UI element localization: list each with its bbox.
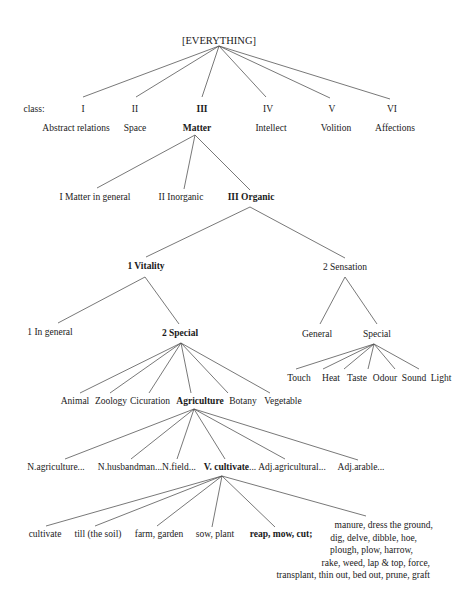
node-adj-agricultural: Adj.agricultural... bbox=[258, 462, 326, 473]
class-name-volition: Volition bbox=[321, 123, 351, 134]
class-name-space: Space bbox=[124, 123, 147, 134]
node-cultivate-verbs-block: manure, dress the ground, dig, delve, di… bbox=[276, 519, 430, 582]
class-numeral-i: I bbox=[81, 104, 84, 115]
node-n-husbandman: N.husbandman... bbox=[98, 462, 162, 473]
node-zoology: Zoology bbox=[95, 396, 127, 407]
node-sensation-special: Special bbox=[363, 329, 391, 340]
class-numeral-v: V bbox=[329, 104, 336, 115]
node-botany: Botany bbox=[229, 396, 256, 407]
node-sow-plant: sow, plant bbox=[196, 529, 234, 540]
class-numeral-iii: III bbox=[196, 104, 207, 115]
tree-edges bbox=[0, 0, 454, 605]
class-name-matter: Matter bbox=[183, 123, 211, 134]
node-cicuration: Cicuration bbox=[130, 396, 170, 407]
node-farm-garden: farm, garden bbox=[135, 529, 184, 540]
node-vitality: 1 Vitality bbox=[127, 261, 164, 272]
verbs-line-5: transplant, thin out, bed out, prune, gr… bbox=[276, 569, 430, 582]
node-taste: Taste bbox=[347, 373, 367, 384]
verbs-line-3: plough, plow, harrow, bbox=[276, 544, 413, 557]
class-numeral-iv: IV bbox=[263, 104, 273, 115]
verbs-line-4: rake, weed, lap & top, force, bbox=[276, 557, 430, 570]
class-name-abstract-relations: Abstract relations bbox=[42, 123, 109, 134]
node-2-special: 2 Special bbox=[162, 328, 198, 339]
class-name-intellect: Intellect bbox=[255, 123, 286, 134]
class-numeral-vi: VI bbox=[387, 104, 397, 115]
node-matter-in-general: I Matter in general bbox=[60, 192, 131, 203]
node-organic: III Organic bbox=[228, 192, 275, 203]
node-v-cultivate-ellipsis: ... bbox=[249, 462, 256, 472]
node-v-cultivate: V. cultivate... bbox=[204, 462, 256, 473]
node-light: Light bbox=[431, 373, 452, 384]
node-sound: Sound bbox=[402, 373, 426, 384]
node-v-cultivate-label: V. cultivate bbox=[204, 462, 249, 472]
node-sensation-general: General bbox=[302, 329, 332, 340]
node-odour: Odour bbox=[373, 373, 397, 384]
node-touch: Touch bbox=[287, 373, 311, 384]
node-till-the-soil: till (the soil) bbox=[75, 529, 122, 540]
node-n-agriculture: N.agriculture... bbox=[27, 462, 85, 473]
node-vegetable: Vegetable bbox=[264, 396, 301, 407]
node-cultivate: cultivate bbox=[29, 529, 62, 540]
node-agriculture: Agriculture bbox=[176, 396, 223, 407]
class-name-affections: Affections bbox=[375, 123, 415, 134]
node-everything: [EVERYTHING] bbox=[182, 35, 256, 46]
node-animal: Animal bbox=[61, 396, 90, 407]
class-prefix-label: class: bbox=[23, 104, 44, 115]
node-adj-arable: Adj.arable... bbox=[338, 462, 385, 473]
node-sensation: 2 Sensation bbox=[323, 262, 367, 273]
node-n-field: N.field... bbox=[162, 462, 196, 473]
node-heat: Heat bbox=[322, 373, 340, 384]
node-inorganic: II Inorganic bbox=[159, 192, 204, 203]
verbs-line-1: manure, dress the ground, bbox=[276, 519, 433, 532]
verbs-line-2: dig, delve, dibble, hoe, bbox=[276, 532, 417, 545]
class-numeral-ii: II bbox=[132, 104, 138, 115]
node-in-general: 1 In general bbox=[27, 327, 72, 338]
